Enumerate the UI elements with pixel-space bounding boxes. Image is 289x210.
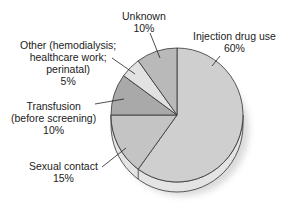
label-unknown-name: Unknown xyxy=(122,10,166,22)
label-unknown-pct: 10% xyxy=(122,22,166,34)
label-injection-pct: 60% xyxy=(193,42,276,54)
label-transfusion-name-1: Transfusion xyxy=(11,100,96,112)
label-other: Other (hemodialysis; healthcare work; pe… xyxy=(20,39,116,87)
pie-slices xyxy=(111,48,243,182)
label-sexual: Sexual contact 15% xyxy=(29,160,98,184)
label-other-name-1: Other (hemodialysis; xyxy=(20,39,116,51)
label-other-name-2: healthcare work; xyxy=(20,51,116,63)
label-injection-name: Injection drug use xyxy=(193,30,276,42)
label-sexual-name: Sexual contact xyxy=(29,160,98,172)
label-unknown: Unknown 10% xyxy=(122,10,166,34)
label-transfusion-name-2: (before screening) xyxy=(11,112,96,124)
label-injection: Injection drug use 60% xyxy=(193,30,276,54)
label-other-pct: 5% xyxy=(20,75,116,87)
label-transfusion-pct: 10% xyxy=(11,124,96,136)
label-sexual-pct: 15% xyxy=(29,172,98,184)
label-other-name-3: perinatal) xyxy=(20,63,116,75)
label-transfusion: Transfusion (before screening) 10% xyxy=(11,100,96,136)
